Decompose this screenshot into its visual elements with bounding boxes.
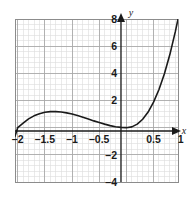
y-tick-label: 2 <box>111 94 117 106</box>
y-tick-label: 6 <box>111 40 117 52</box>
x-tick-label: –2 <box>12 133 24 145</box>
x-tick-label: –0.5 <box>89 133 110 145</box>
y-axis-label: y <box>128 7 134 18</box>
x-tick-label: –1 <box>66 133 78 145</box>
x-tick-label: 0.5 <box>146 133 161 145</box>
y-tick-label: 8 <box>111 13 117 25</box>
y-tick-label: 4 <box>111 67 117 79</box>
cubic-function-graph: x y –2–1.5–1–0.50.51 8642–2–4 <box>0 0 194 197</box>
x-tick-label: –1.5 <box>35 133 56 145</box>
y-tick-label: –4 <box>105 176 117 188</box>
x-tick-labels: –2–1.5–1–0.50.51 <box>12 133 184 145</box>
figure-background <box>0 0 194 197</box>
y-tick-label: –2 <box>105 149 117 161</box>
x-tick-label: 1 <box>178 133 184 145</box>
